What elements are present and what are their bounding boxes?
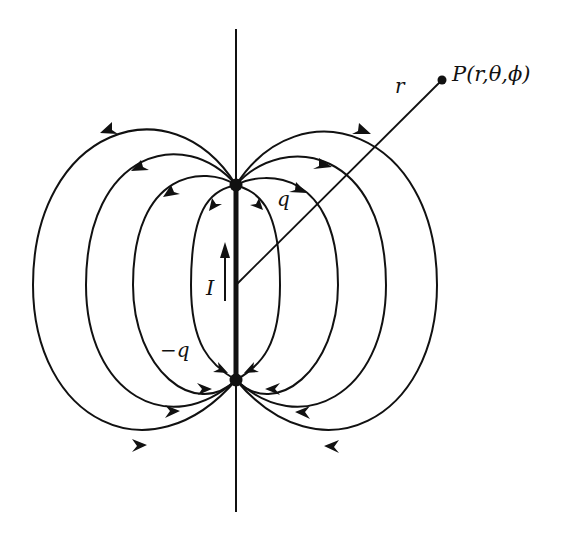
arrow-icon [209,198,222,211]
positive-charge-dot [230,179,243,192]
point-P-label: P(r,θ,ϕ) [452,64,531,85]
arrow-icon [352,123,371,134]
field-line-right-1 [236,132,437,430]
arrow-icon [100,122,118,134]
radius-label: r [395,76,405,96]
negative-charge-label: −q [160,340,190,360]
arrow-icon [163,185,180,197]
current-label: I [206,278,214,299]
arrow-icon [295,406,310,419]
dipole-diagram: P(r,θ,ϕ) r q −q I [0,0,576,536]
arrow-icon [132,439,147,452]
current-arrow-head-icon [220,242,230,258]
field-line-right-4 [236,185,280,380]
arrow-icon [324,440,339,453]
point-P-dot [438,76,447,85]
positive-charge-label: q [277,189,290,209]
negative-charge-dot [230,374,243,387]
